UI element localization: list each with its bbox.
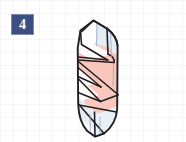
origami-figure (0, 0, 186, 142)
fold-line-top-center (97, 22, 98, 47)
crease-bottom-center-vertical (95, 112, 96, 137)
origami-illustration-svg (0, 0, 186, 142)
fold-line-right-upper (113, 64, 114, 87)
crease-top-right-vertical (107, 29, 108, 55)
diagram-canvas: 4 (0, 0, 186, 142)
fold-line-bottom-left (90, 114, 91, 134)
